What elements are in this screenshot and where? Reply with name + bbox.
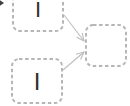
node-top-left-label: I [35,0,41,22]
diagram-canvas: II [0,0,130,106]
node-bottom-left[interactable]: I [12,59,62,103]
edge-bottom-to-right[interactable] [63,52,84,70]
clipped-arrowhead-icon [0,0,4,8]
node-top-left[interactable]: I [13,0,63,31]
node-right[interactable] [86,25,126,66]
node-bottom-left-label: I [34,68,41,95]
edge-top-to-right[interactable] [64,15,84,41]
node-right-box[interactable] [86,25,126,66]
